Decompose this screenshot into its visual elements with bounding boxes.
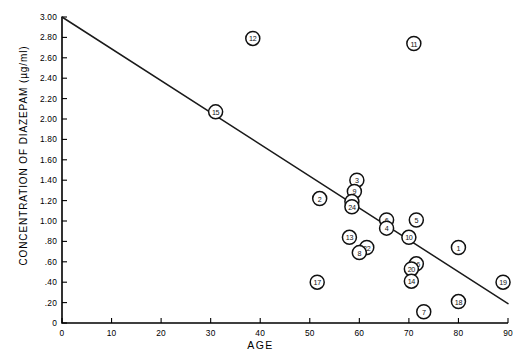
x-tick-label: 30 bbox=[206, 328, 216, 338]
y-tick-label: 1.00 bbox=[40, 216, 57, 226]
marker-label: 8 bbox=[357, 249, 361, 258]
y-tick-label: 2.60 bbox=[40, 53, 57, 63]
y-tick-label: .40 bbox=[45, 277, 57, 287]
data-point-marker: 8 bbox=[352, 246, 366, 260]
x-tick-label: 60 bbox=[354, 328, 364, 338]
data-point-marker: 24 bbox=[345, 200, 359, 214]
data-point-marker: 14 bbox=[404, 274, 418, 288]
y-tick-label: 2.40 bbox=[40, 73, 57, 83]
data-point-marker: 7 bbox=[417, 305, 431, 319]
data-point-marker: 13 bbox=[342, 230, 356, 244]
marker-label: 14 bbox=[408, 277, 416, 286]
y-axis-title: CONCENTRATION OF DIAZEPAM (µg/ml) bbox=[18, 21, 29, 291]
data-point-marker: 15 bbox=[209, 105, 223, 119]
x-tick-label: 90 bbox=[503, 328, 513, 338]
marker-label: 19 bbox=[499, 278, 507, 287]
data-point-marker: 19 bbox=[496, 275, 510, 289]
y-tick-label: 2.00 bbox=[40, 114, 57, 124]
data-point-marker: 10 bbox=[402, 230, 416, 244]
marker-label: 1 bbox=[457, 244, 461, 253]
x-tick-label: 10 bbox=[107, 328, 117, 338]
plot-canvas: 0.20.40.60.801.001.201.401.601.802.002.2… bbox=[0, 0, 521, 361]
y-tick-label: .60 bbox=[45, 257, 57, 267]
marker-label: 12 bbox=[249, 34, 257, 43]
marker-label: 13 bbox=[346, 233, 354, 242]
data-point-marker: 5 bbox=[409, 213, 423, 227]
y-tick-label: .20 bbox=[45, 298, 57, 308]
x-tick-label: 40 bbox=[255, 328, 265, 338]
y-tick-label: 2.80 bbox=[40, 32, 57, 42]
x-tick-label: 70 bbox=[404, 328, 414, 338]
y-tick-label: 3.00 bbox=[40, 12, 57, 22]
marker-label: 24 bbox=[348, 203, 356, 212]
axis-lines bbox=[62, 17, 508, 323]
marker-label: 2 bbox=[318, 195, 322, 204]
marker-label: 11 bbox=[410, 40, 417, 49]
y-tick-label: 1.60 bbox=[40, 155, 57, 165]
data-point-marker: 17 bbox=[310, 275, 324, 289]
x-tick-label: 20 bbox=[156, 328, 166, 338]
data-point-marker: 18 bbox=[451, 295, 465, 309]
marker-label: 18 bbox=[455, 298, 463, 307]
y-tick-label: .80 bbox=[45, 236, 57, 246]
marker-label: 7 bbox=[422, 308, 426, 317]
data-point-marker: 4 bbox=[380, 221, 394, 235]
marker-label: 15 bbox=[212, 108, 220, 117]
x-tick-label: 80 bbox=[454, 328, 464, 338]
marker-label: 10 bbox=[405, 233, 413, 242]
x-tick-label: 0 bbox=[60, 328, 65, 338]
data-point-marker: 11 bbox=[407, 37, 421, 51]
x-tick-label: 50 bbox=[305, 328, 315, 338]
data-point-marker: 12 bbox=[246, 31, 260, 45]
y-tick-label: 1.40 bbox=[40, 175, 57, 185]
data-point-marker: 2 bbox=[313, 192, 327, 206]
data-point-marker: 1 bbox=[451, 241, 465, 255]
marker-label: 20 bbox=[408, 265, 416, 274]
marker-label: 5 bbox=[414, 216, 418, 225]
y-tick-label: 1.20 bbox=[40, 196, 57, 206]
marker-label: 4 bbox=[385, 224, 389, 233]
y-tick-label: 1.80 bbox=[40, 134, 57, 144]
scatter-plot-figure: 0.20.40.60.801.001.201.401.601.802.002.2… bbox=[0, 0, 521, 361]
regression-line bbox=[62, 17, 508, 304]
y-tick-label: 0 bbox=[52, 318, 57, 328]
x-axis-title: AGE bbox=[0, 339, 521, 351]
marker-label: 17 bbox=[314, 278, 322, 287]
y-tick-label: 2.20 bbox=[40, 94, 57, 104]
